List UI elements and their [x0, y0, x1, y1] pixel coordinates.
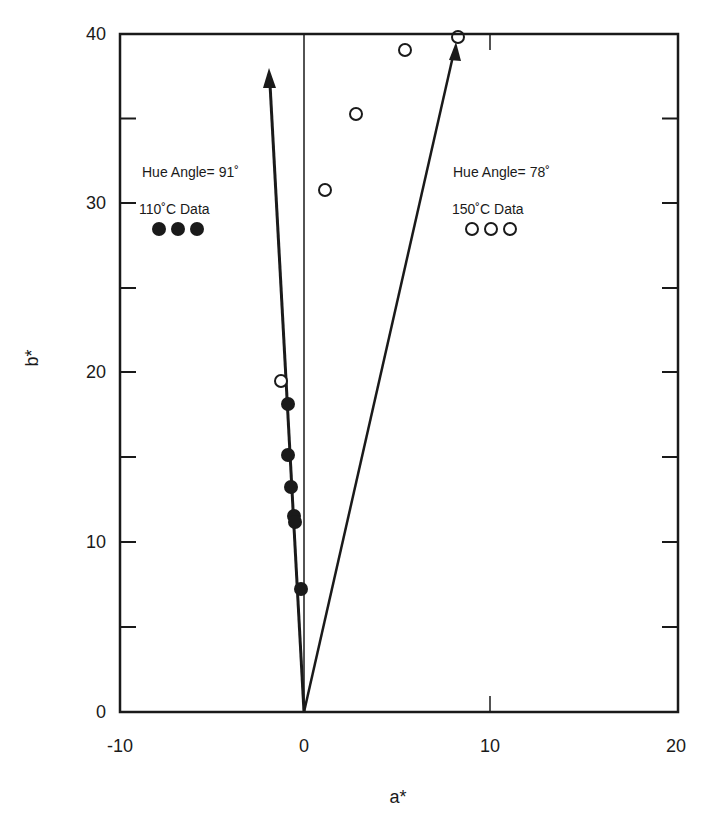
arrowhead-icon [263, 68, 276, 88]
hue-angle-right-label: Hue Angle= 78˚ [453, 164, 550, 180]
y-axis-ticks-right [662, 119, 678, 628]
x-tick-0: 0 [299, 736, 309, 756]
y-axis-ticks-left [120, 119, 136, 628]
data-point [288, 515, 302, 529]
data-point [350, 108, 362, 120]
hue-angle-left-label: Hue Angle= 91˚ [142, 164, 239, 180]
y-tick-40: 40 [86, 24, 106, 44]
y-tick-0: 0 [96, 702, 106, 722]
legend-110c-label: 110˚C Data [139, 201, 210, 217]
y-tick-30: 30 [86, 193, 106, 213]
hue-vector-91 [263, 68, 304, 712]
data-point [284, 480, 298, 494]
y-tick-labels: 0 10 20 30 40 [86, 24, 106, 722]
y-tick-20: 20 [86, 362, 106, 382]
x-tick-labels: -10 0 10 20 [107, 736, 686, 756]
data-point [275, 375, 287, 387]
data-point [294, 582, 308, 596]
data-point [281, 397, 295, 411]
x-tick-10: 10 [480, 736, 500, 756]
y-axis-label: b* [22, 349, 42, 366]
data-point [281, 448, 295, 462]
plot-frame [120, 34, 678, 712]
x-tick-20: 20 [666, 736, 686, 756]
legend-150c-label: 150˚C Data [452, 201, 524, 217]
hue-vector-78 [304, 42, 461, 712]
legend-110c-markers [152, 222, 204, 236]
arrowhead-icon [449, 42, 461, 61]
data-point [399, 44, 411, 56]
y-tick-10: 10 [86, 532, 106, 552]
x-tick-neg10: -10 [107, 736, 133, 756]
legend-150c-markers [466, 223, 516, 235]
data-point [319, 184, 331, 196]
x-axis-label: a* [389, 787, 406, 807]
hue-angle-chart: 0 10 20 30 40 -10 0 10 20 a* b* [0, 0, 704, 822]
